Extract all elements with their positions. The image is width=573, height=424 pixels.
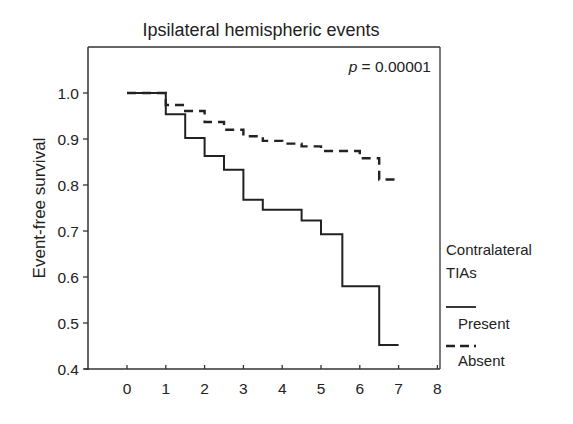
x-tick-label: 0	[123, 380, 132, 397]
series-present-line	[127, 93, 399, 345]
legend: Contralateral TIAs Present Absent	[446, 241, 532, 369]
survival-chart: Ipsilateral hemispheric events 0.40.50.6…	[0, 0, 573, 424]
p-value-annotation: p = 0.00001	[348, 58, 431, 75]
x-tick-label: 4	[278, 380, 287, 397]
legend-absent-label: Absent	[458, 352, 506, 369]
legend-title-line-1: Contralateral	[446, 241, 532, 258]
y-axis-ticks: 0.40.50.60.70.80.91.0	[57, 85, 88, 378]
y-tick-label: 0.4	[57, 361, 79, 378]
x-tick-label: 5	[317, 380, 326, 397]
y-tick-label: 0.9	[57, 131, 79, 148]
legend-title-line-2: TIAs	[446, 264, 477, 281]
x-axis-ticks: 012345678	[123, 365, 442, 397]
x-tick-label: 8	[433, 380, 442, 397]
series-layer	[127, 93, 399, 345]
x-tick-label: 6	[355, 380, 364, 397]
x-tick-label: 3	[239, 380, 248, 397]
series-absent-line	[127, 93, 399, 179]
x-tick-label: 2	[200, 380, 209, 397]
p-value-text: = 0.00001	[357, 58, 431, 75]
x-tick-label: 1	[161, 380, 170, 397]
p-symbol: p	[348, 58, 358, 75]
y-axis-label: Event-free survival	[30, 138, 49, 279]
y-tick-label: 0.7	[57, 223, 79, 240]
x-tick-label: 7	[394, 380, 403, 397]
y-tick-label: 0.8	[57, 177, 79, 194]
y-tick-label: 1.0	[57, 85, 79, 102]
y-tick-label: 0.6	[57, 269, 79, 286]
y-tick-label: 0.5	[57, 315, 79, 332]
legend-present-label: Present	[458, 315, 511, 332]
chart-title: Ipsilateral hemispheric events	[142, 20, 379, 40]
